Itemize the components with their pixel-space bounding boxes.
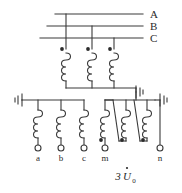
polarity-dot-m-delta — [99, 138, 103, 142]
polarity-dot-a-primary — [60, 47, 64, 51]
ground-symbol-secondary-left — [15, 94, 22, 106]
coil-c-primary — [110, 53, 119, 81]
terminal-circle-m[interactable] — [102, 145, 108, 151]
polarity-dot-b-primary — [86, 47, 90, 51]
terminal-label-n: n — [158, 153, 163, 163]
terminal-label-b: b — [59, 153, 64, 163]
polarity-dot-n-delta — [141, 138, 145, 142]
circuit-svg: A B C a b c m n 3 U 0 — [0, 0, 182, 193]
coil-c-secondary — [80, 110, 89, 138]
primary-polarity-dots — [60, 47, 112, 51]
phase-taps — [66, 14, 114, 49]
open-delta-group — [101, 92, 161, 145]
schematic-diagram: A B C a b c m n 3 U 0 — [0, 0, 182, 193]
terminal-circle-c[interactable] — [81, 145, 87, 151]
coil-b-secondary — [57, 110, 66, 138]
delta-polarity-dots — [99, 138, 145, 142]
terminal-label-a: a — [36, 153, 40, 163]
delta-jumper-2 — [134, 100, 140, 141]
phase-label-B: B — [150, 20, 157, 32]
polarity-dot-mid-delta — [120, 138, 124, 142]
terminal-circle-a[interactable] — [35, 145, 41, 151]
annotation-dot-accent — [126, 167, 128, 169]
polarity-dot-c-primary — [108, 47, 112, 51]
coil-a-secondary — [34, 110, 43, 138]
delta-jumper-1 — [113, 100, 119, 141]
annotation-subscript: 0 — [132, 177, 136, 185]
coil-n-delta — [143, 110, 152, 138]
terminal-label-c: c — [82, 153, 86, 163]
terminal-circle-n[interactable] — [157, 145, 163, 151]
coil-b-primary — [88, 53, 97, 81]
phase-label-C: C — [150, 32, 157, 44]
zero-sequence-annotation: 3 U 0 — [114, 167, 136, 185]
coil-m-delta — [101, 110, 110, 138]
terminal-labels: a b c m n — [36, 153, 163, 163]
secondary-bus-group — [22, 100, 84, 110]
annotation-coefficient: 3 — [114, 170, 121, 182]
secondary-winding-group — [34, 110, 89, 145]
coil-mid-delta — [122, 110, 131, 138]
primary-winding-group — [62, 53, 137, 92]
phase-labels: A B C — [150, 8, 158, 44]
ground-symbol-secondary-right — [155, 94, 167, 106]
annotation-symbol: U — [123, 170, 132, 182]
terminal-circles — [35, 145, 163, 151]
ground-symbol-primary-neutral — [136, 86, 143, 98]
terminal-circle-b[interactable] — [58, 145, 64, 151]
terminal-label-m: m — [101, 153, 108, 163]
phase-label-A: A — [150, 8, 158, 20]
coil-a-primary — [62, 53, 71, 81]
